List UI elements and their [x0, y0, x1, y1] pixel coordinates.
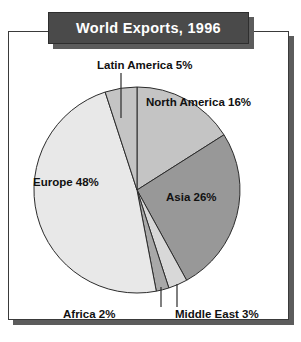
slice-label-north-america: North America 16%	[146, 97, 251, 109]
slice-label-latin-america: Latin America 5%	[97, 60, 192, 72]
pie-svg	[0, 0, 301, 342]
pie-chart-figure: World Exports, 1996 Latin America 5% Nor…	[0, 0, 301, 342]
slice-label-europe: Europe 48%	[33, 177, 99, 189]
slice-label-africa: Africa 2%	[63, 309, 115, 321]
slice-label-asia: Asia 26%	[166, 192, 217, 204]
slice-label-middle-east: Middle East 3%	[175, 309, 259, 321]
